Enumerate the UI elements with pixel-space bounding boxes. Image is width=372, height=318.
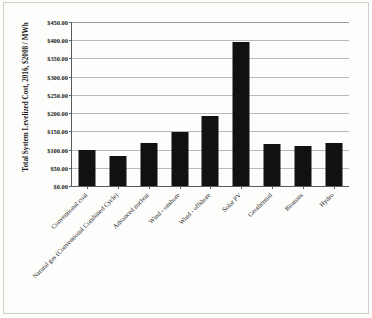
y-axis-title: Total System Levelized Cost, 2016, $2008… xyxy=(19,9,33,185)
y-axis-tick-label: $0.00 xyxy=(54,183,68,190)
x-axis-tick-mark xyxy=(180,186,181,189)
y-axis-tick-label: $50.00 xyxy=(50,164,68,171)
x-axis-tick-mark xyxy=(241,186,242,189)
x-axis-tick-mark xyxy=(118,186,119,189)
y-axis-tick-label: $400.00 xyxy=(47,37,68,44)
bar-slot xyxy=(164,22,195,186)
bar-series xyxy=(72,22,349,186)
bar xyxy=(325,143,342,186)
bar-slot xyxy=(103,22,134,186)
bar-slot xyxy=(318,22,349,186)
bar xyxy=(233,42,250,186)
bar-slot xyxy=(134,22,165,186)
y-axis-tick-label: $100.00 xyxy=(47,146,68,153)
x-axis-tick-mark xyxy=(210,186,211,189)
bar-slot xyxy=(257,22,288,186)
x-axis-tick-mark xyxy=(272,186,273,189)
y-axis-tick-label: $250.00 xyxy=(47,91,68,98)
x-axis-tick-mark xyxy=(334,186,335,189)
x-axis-tick-mark xyxy=(303,186,304,189)
plot-area: $0.00$50.00$100.00$150.00$200.00$250.00$… xyxy=(71,22,349,187)
y-axis-tick-label: $450.00 xyxy=(47,19,68,26)
x-axis-tick-mark xyxy=(87,186,88,189)
x-axis-tick-mark xyxy=(149,186,150,189)
y-axis-tick-label: $150.00 xyxy=(47,128,68,135)
bar-slot xyxy=(195,22,226,186)
bar xyxy=(202,116,219,186)
bar-slot xyxy=(72,22,103,186)
y-axis-tick-label: $350.00 xyxy=(47,55,68,62)
bar xyxy=(264,144,281,186)
bar xyxy=(140,143,157,186)
bar-slot xyxy=(287,22,318,186)
y-axis-tick-label: $300.00 xyxy=(47,73,68,80)
bar xyxy=(79,150,96,186)
y-axis-tick-mark xyxy=(69,186,72,187)
chart-figure: Total System Levelized Cost, 2016, $2008… xyxy=(0,0,372,318)
bar xyxy=(171,132,188,186)
bar-slot xyxy=(226,22,257,186)
bar xyxy=(110,156,127,186)
bar xyxy=(294,146,311,186)
y-axis-tick-label: $200.00 xyxy=(47,110,68,117)
